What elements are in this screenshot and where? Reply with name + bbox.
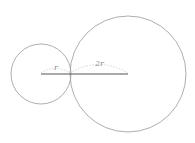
tangent-circles-diagram: r 2r (0, 0, 195, 143)
small-radius-label: r (54, 63, 59, 72)
large-radius-label: 2r (94, 59, 105, 68)
